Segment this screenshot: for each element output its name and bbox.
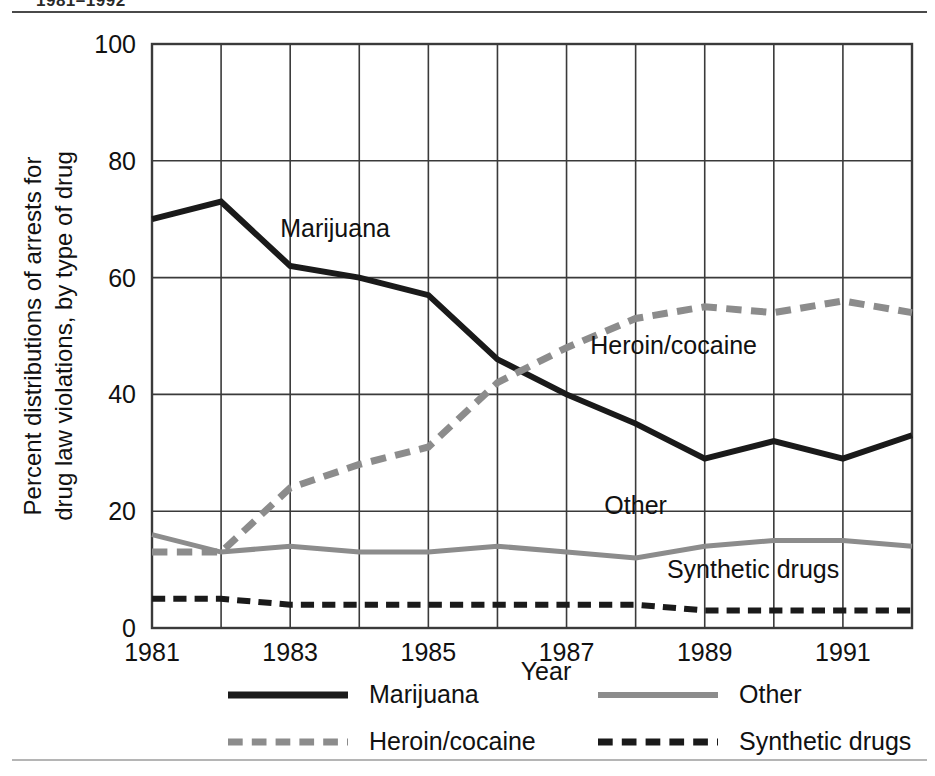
annotation-marijuana: Marijuana — [280, 214, 390, 242]
y-tick-label: 40 — [108, 380, 136, 408]
x-axis-title: Year — [521, 657, 572, 685]
x-tick-label: 1991 — [815, 638, 871, 666]
legend-item-heroin-cocaine[interactable]: Heroin/cocaine — [228, 727, 536, 755]
bottom-divider-rule — [12, 759, 927, 761]
x-tick-label: 1981 — [124, 638, 180, 666]
x-tick-label: 1985 — [401, 638, 457, 666]
y-axis-title: Percent distributions of arrests for dru… — [19, 151, 77, 521]
legend-item-other[interactable]: Other — [598, 680, 802, 708]
legend-item-synthetic-drugs[interactable]: Synthetic drugs — [598, 727, 911, 755]
y-tick-label: 80 — [108, 147, 136, 175]
series-line-heroin-cocaine — [152, 301, 912, 552]
x-tick-label: 1989 — [677, 638, 733, 666]
annotation-heroin-cocaine: Heroin/cocaine — [590, 331, 757, 359]
x-tick-label: 1983 — [262, 638, 318, 666]
series-line-synthetic-drugs — [152, 599, 912, 611]
legend-label: Synthetic drugs — [739, 727, 911, 755]
x-axis-ticks: 198119831985198719891991 — [124, 638, 871, 666]
legend-label: Other — [739, 680, 802, 708]
y-axis-ticks: 020406080100 — [94, 30, 136, 642]
chart-series — [152, 202, 912, 611]
legend-label: Heroin/cocaine — [369, 727, 536, 755]
legend-item-marijuana[interactable]: Marijuana — [228, 680, 479, 708]
y-tick-label: 60 — [108, 264, 136, 292]
y-tick-label: 20 — [108, 497, 136, 525]
line-chart: 020406080100 198119831985198719891991 Ma… — [0, 0, 935, 776]
series-annotations: MarijuanaHeroin/cocaineOtherSynthetic dr… — [280, 214, 839, 584]
annotation-synthetic-drugs: Synthetic drugs — [667, 555, 839, 583]
annotation-other: Other — [604, 491, 667, 519]
figure-container: 1981–1992 020406080100 19811983198519871… — [0, 0, 935, 776]
y-tick-label: 100 — [94, 30, 136, 58]
series-line-marijuana — [152, 202, 912, 459]
y-axis-title-line2: drug law violations, by type of drug — [50, 151, 77, 521]
y-axis-title-line1: Percent distributions of arrests for — [19, 157, 46, 516]
chart-legend: MarijuanaOtherHeroin/cocaineSynthetic dr… — [228, 680, 911, 755]
legend-label: Marijuana — [369, 680, 479, 708]
